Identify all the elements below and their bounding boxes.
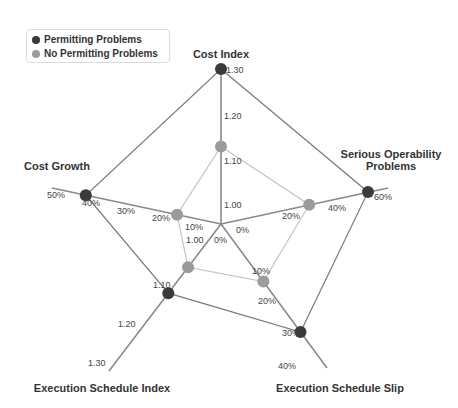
tick-label: 1.30 (88, 358, 106, 368)
tick-label: 10% (185, 222, 203, 232)
axis-title-cost_growth: Cost Growth (24, 160, 90, 172)
data-point-no-permitting-schedule_slip (257, 276, 269, 288)
axis-title-schedule_index: Execution Schedule Index (34, 382, 171, 394)
tick-label: 20% (258, 296, 276, 306)
legend-label: Permitting Problems (44, 34, 142, 45)
data-point-no-permitting-serious_operability (303, 199, 315, 211)
tick-label: 20% (152, 213, 170, 223)
tick-label: 1.20 (224, 111, 242, 121)
axis-line-cost_growth (52, 188, 221, 224)
data-point-no-permitting-cost_growth (171, 209, 183, 221)
tick-label: 10% (252, 266, 270, 276)
legend-marker-light (32, 50, 40, 58)
tick-label: 1.00 (186, 235, 204, 245)
tick-label: 40% (328, 203, 346, 213)
tick-label: 0% (236, 225, 249, 235)
tick-label: 20% (282, 211, 300, 221)
tick-label: 30% (117, 206, 135, 216)
tick-label: 1.20 (118, 319, 136, 329)
tick-label: 1.30 (226, 65, 244, 75)
tick-label: 1.10 (153, 280, 171, 290)
axis-title-schedule_slip: Execution Schedule Slip (276, 382, 404, 394)
axis-title-serious_operability: Serious Operability (341, 148, 443, 160)
data-point-no-permitting-cost_index (215, 141, 227, 153)
legend-marker-dark (32, 36, 40, 44)
axis-title-cost_index: Cost Index (193, 48, 250, 60)
data-point-no-permitting-schedule_index (182, 261, 194, 273)
tick-label: 40% (82, 198, 100, 208)
tick-label: 60% (374, 192, 392, 202)
tick-label: 0% (214, 235, 227, 245)
legend: Permitting Problems No Permitting Proble… (26, 29, 170, 63)
tick-label: 40% (278, 361, 296, 371)
tick-label: 50% (47, 190, 65, 200)
legend-item-no-permitting: No Permitting Problems (32, 48, 158, 59)
axis-title-serious_operability: Problems (366, 160, 416, 172)
tick-label: 1.10 (224, 156, 242, 166)
tick-label: 30% (282, 328, 300, 338)
legend-item-permitting: Permitting Problems (32, 34, 142, 45)
tick-label: 1.00 (224, 200, 242, 210)
data-point-permitting-serious_operability (362, 186, 374, 198)
legend-label: No Permitting Problems (44, 48, 158, 59)
